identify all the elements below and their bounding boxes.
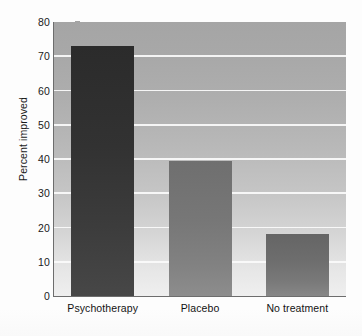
y-tick-label: 80 (24, 16, 50, 28)
y-tick-label: 50 (24, 119, 50, 131)
bar (266, 234, 329, 296)
x-axis-category-labels: PsychotherapyPlaceboNo treatment (54, 302, 346, 322)
y-tick-label: 60 (24, 85, 50, 97)
y-axis-tick-labels: 01020304050607080 (24, 22, 50, 296)
y-tick-label: 40 (24, 153, 50, 165)
y-tick-label: 20 (24, 222, 50, 234)
plot-area (54, 22, 346, 296)
y-tick-label: 10 (24, 256, 50, 268)
y-tick-label: 30 (24, 187, 50, 199)
x-category-label: Placebo (181, 302, 220, 314)
x-category-label: Psychotherapy (67, 302, 138, 314)
x-category-label: No treatment (266, 302, 328, 314)
y-tick-label: 70 (24, 50, 50, 62)
bar (71, 46, 134, 296)
y-tick-label: 0 (24, 290, 50, 302)
bar (169, 161, 232, 296)
x-axis-line (53, 296, 346, 297)
bar-chart-figure: Percent improved 01020304050607080 Psych… (0, 0, 362, 336)
